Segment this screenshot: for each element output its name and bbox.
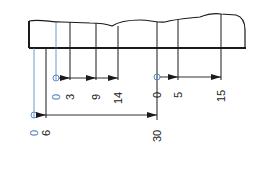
dimension-chain-upper-right	[154, 74, 221, 80]
label-origin-upper-right: 0	[151, 92, 163, 98]
label-origin-lower: 0	[28, 130, 40, 136]
label-9: 9	[90, 94, 102, 100]
dimension-labels: 0 6 30 0 3 9 14 0 5 15	[28, 90, 227, 142]
label-6: 6	[40, 130, 52, 136]
break-line	[29, 14, 245, 48]
label-14: 14	[112, 92, 124, 104]
dimension-drawing: 0 6 30 0 3 9 14 0 5 15	[0, 0, 270, 174]
label-15: 15	[215, 90, 227, 102]
label-origin-upper-left: 0	[50, 94, 62, 100]
label-30: 30	[151, 130, 163, 142]
dimension-chain-upper-left	[53, 75, 118, 81]
dimension-chain-lower	[31, 112, 157, 118]
part-outline	[29, 14, 246, 48]
label-5: 5	[172, 92, 184, 98]
label-3: 3	[64, 94, 76, 100]
extension-lines	[34, 14, 221, 120]
